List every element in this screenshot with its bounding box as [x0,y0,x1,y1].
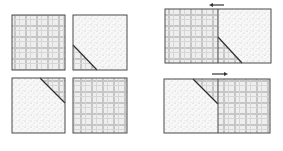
dotted-square-with-corner [73,15,127,70]
plaid-square-bottom-right [73,78,127,133]
plaid-square-top-left [12,15,65,70]
joined-unit-top [165,9,271,63]
joined-unit-bottom [164,79,270,133]
dotted-square-with-corner [12,78,65,133]
press-arrow-left-icon [209,3,224,7]
press-arrow-right-icon [212,72,228,76]
quilt-diagram [0,0,283,151]
